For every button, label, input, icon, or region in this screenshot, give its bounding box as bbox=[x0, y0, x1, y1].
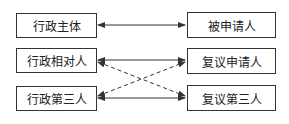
box-label: 复议申请人 bbox=[202, 53, 262, 70]
box-administrative-counterpart: 行政相对人 bbox=[16, 48, 97, 73]
box-respondent: 被申请人 bbox=[187, 12, 276, 38]
box-administrative-third-party: 行政第三人 bbox=[16, 86, 97, 111]
box-label: 复议第三人 bbox=[202, 90, 262, 107]
box-label: 被申请人 bbox=[208, 17, 256, 34]
box-review-third-party: 复议第三人 bbox=[187, 85, 276, 111]
box-review-applicant: 复议申请人 bbox=[187, 48, 276, 74]
box-label: 行政主体 bbox=[33, 17, 81, 34]
box-administrative-subject: 行政主体 bbox=[16, 13, 97, 38]
box-label: 行政相对人 bbox=[27, 52, 87, 69]
box-label: 行政第三人 bbox=[27, 90, 87, 107]
